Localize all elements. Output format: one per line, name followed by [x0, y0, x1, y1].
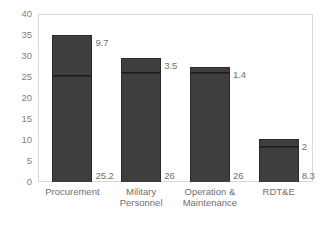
bar-segment-lower[interactable] [52, 76, 92, 182]
y-axis-tick-label: 0 [2, 177, 32, 187]
bar-value-label-lower: 8.3 [302, 171, 315, 181]
stacked-bar-chart: 0510152025303540 9.725.23.5261.42628.3 P… [0, 0, 328, 241]
x-axis-category-label: Operation & Maintenance [176, 186, 245, 208]
y-axis-tick-label: 15 [2, 114, 32, 124]
bar-value-label-lower: 26 [233, 171, 244, 181]
x-axis-category-label: Military Personnel [107, 186, 176, 208]
bar-value-label-lower: 26 [164, 171, 175, 181]
y-axis-tick-label: 35 [2, 30, 32, 40]
y-axis-tick-label: 40 [2, 9, 32, 19]
x-axis-category-label: Procurement [38, 186, 107, 197]
y-axis: 0510152025303540 [0, 0, 36, 241]
x-axis-category-labels: ProcurementMilitary PersonnelOperation &… [38, 186, 313, 232]
y-axis-tick-label: 5 [2, 156, 32, 166]
bar-segment-upper[interactable] [190, 67, 230, 73]
y-axis-tick-label: 30 [2, 51, 32, 61]
bar-segment-lower[interactable] [190, 73, 230, 182]
plot-area: 9.725.23.5261.42628.3 [38, 14, 313, 182]
bar-group[interactable] [121, 58, 161, 182]
bar-segment-upper[interactable] [52, 35, 92, 76]
y-axis-tick-label: 25 [2, 72, 32, 82]
bar-segment-lower[interactable] [121, 73, 161, 182]
bar-value-label-upper: 9.7 [95, 38, 108, 48]
bar-group[interactable] [190, 67, 230, 182]
bar-segment-upper[interactable] [121, 58, 161, 73]
x-axis-category-label: RDT&E [244, 186, 313, 197]
bar-value-label-lower: 25.2 [95, 171, 114, 181]
bar-value-label-upper: 1.4 [233, 70, 246, 80]
y-axis-tick-label: 20 [2, 93, 32, 103]
bar-value-label-upper: 3.5 [164, 61, 177, 71]
bar-group[interactable] [259, 139, 299, 182]
bar-group[interactable] [52, 35, 92, 182]
bar-segment-upper[interactable] [259, 139, 299, 147]
y-axis-tick-label: 10 [2, 135, 32, 145]
bar-segment-lower[interactable] [259, 147, 299, 182]
bar-value-label-upper: 2 [302, 142, 307, 152]
